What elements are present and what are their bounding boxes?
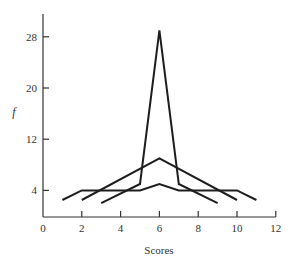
x-tick-label: 4: [118, 222, 124, 234]
x-tick-label: 2: [79, 222, 85, 234]
series-line-1: [62, 184, 256, 200]
x-tick-label: 0: [40, 222, 46, 234]
chart-canvas: 0246810124122028 Scores f: [0, 0, 296, 262]
y-tick-label: 12: [26, 133, 37, 145]
frequency-polygon-chart: 0246810124122028 Scores f: [0, 0, 296, 262]
x-axis-title: Scores: [144, 244, 173, 256]
axes: 0246810124122028: [26, 14, 281, 234]
x-tick-label: 6: [157, 222, 163, 234]
y-tick-label: 28: [26, 31, 38, 43]
y-tick-label: 20: [26, 82, 38, 94]
y-tick-label: 4: [32, 184, 38, 196]
series-group: [62, 30, 256, 203]
x-tick-label: 10: [232, 222, 244, 234]
y-axis-title: f: [12, 105, 17, 119]
x-tick-label: 8: [195, 222, 201, 234]
x-tick-label: 12: [270, 222, 281, 234]
series-line-3: [101, 30, 217, 203]
series-line-2: [82, 158, 237, 200]
